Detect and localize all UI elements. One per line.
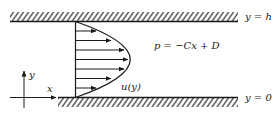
bottom-wall bbox=[58, 98, 238, 108]
velocity-arrows bbox=[76, 31, 129, 88]
top-wall bbox=[10, 12, 238, 22]
profile-label: u(y) bbox=[121, 81, 141, 92]
bottom-wall-label: y = 0 bbox=[244, 92, 272, 103]
pressure-equation: p = −Cx + D bbox=[154, 40, 220, 51]
top-wall-label: y = h bbox=[244, 11, 272, 22]
y-axis-label: y bbox=[28, 69, 35, 80]
x-axis-label: x bbox=[47, 83, 53, 94]
channel-flow-diagram: y = h y = 0 p = −Cx + D u(y) x y bbox=[0, 0, 280, 114]
